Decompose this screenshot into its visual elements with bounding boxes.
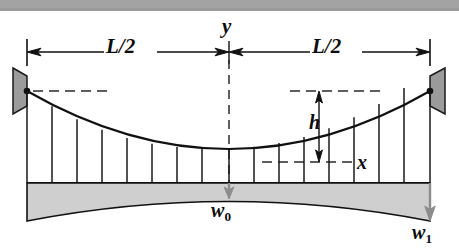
span-label-right: L/2 (312, 36, 341, 57)
load-center-label-sub: 0 (225, 209, 232, 224)
figure-root: L/2 L/2 y h x w0 w1 (0, 0, 459, 252)
load-center-label: w0 (211, 200, 231, 220)
load-end-label: w1 (412, 222, 432, 242)
top-gray-band-shade (0, 8, 459, 11)
sag-label: h (309, 112, 320, 132)
load-end-label-sub: 1 (426, 231, 433, 246)
load-end-label-base: w (412, 221, 425, 243)
x-axis-label: x (357, 152, 367, 172)
load-center-label-base: w (211, 199, 224, 221)
y-axis-label: y (222, 16, 231, 37)
span-label-left: L/2 (106, 36, 135, 57)
